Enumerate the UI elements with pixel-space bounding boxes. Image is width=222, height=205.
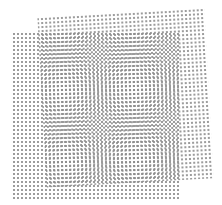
dot-grid-layer-b [37, 8, 213, 187]
moire-canvas [0, 0, 222, 205]
moire-figure: Moiré interference of two dot screens [0, 0, 222, 205]
